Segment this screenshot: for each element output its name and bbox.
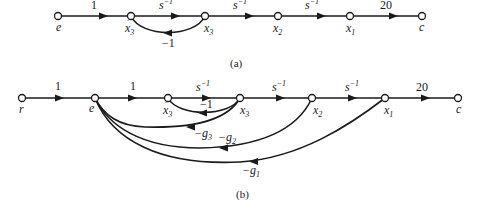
arrow-icon [128,95,137,102]
node-e [55,13,62,20]
arrow-icon [317,13,326,20]
gain-x3-x2: s−1 [233,0,247,12]
signal-flow-graphs: 1 s−1 s−1 s−1 20 −1 e x3 · x3 x2 x1 c (a… [0,0,481,207]
arrow-icon [99,13,108,20]
node-x1 [382,95,389,102]
gain-x3dot-x3: s−1 [196,79,210,94]
diagram-b: 1 1 s−1 s−1 s−1 20 −1 −g3 −g2 −g1 r e x3… [19,79,463,201]
label-e: e [56,20,62,34]
gain-g1: −g1 [242,163,260,179]
arrow-icon [421,95,430,102]
node-x1 [347,13,354,20]
gain-x1-c: 20 [416,80,428,94]
label-x1: x1 [383,103,393,119]
gain-x3-x2: s−1 [272,79,286,94]
gain-g3: −g3 [194,126,212,142]
caption-b: (b) [236,188,249,201]
label-c: c [419,20,425,34]
label-r: r [19,102,24,116]
caption-a: (a) [230,57,243,70]
dot-mark: · [127,15,130,25]
label-x2: x2 [272,21,282,37]
gain-g2: −g2 [218,130,236,146]
label-x3: x3 [203,21,213,37]
gain-x3dot-x3: s−1 [159,0,173,12]
arrow-icon [219,145,228,152]
node-r [19,95,26,102]
gain-feedback-a: −1 [162,36,175,50]
gain-e-x3dot: 1 [91,0,97,12]
dot-mark: · [165,97,168,107]
gain-x2-x1: s−1 [345,79,359,94]
label-x1: x1 [345,21,355,37]
gain-x1-c: 20 [380,0,392,12]
node-x2 [275,13,282,20]
label-c: c [456,102,462,116]
arrow-icon [55,95,64,102]
node-x2 [309,95,316,102]
feedback-branch-a [131,16,205,33]
arrow-icon [276,95,285,102]
diagram-a: 1 s−1 s−1 s−1 20 −1 e x3 · x3 x2 x1 c (a… [55,0,426,70]
label-e: e [89,101,95,115]
label-x3: x3 [239,103,249,119]
gain-feedback-minor: −1 [200,97,213,111]
gain-e-x3dot: 1 [130,79,136,93]
gain-r-e: 1 [55,79,61,93]
arrow-icon [171,13,180,20]
node-c [455,95,462,102]
node-x3 [237,95,244,102]
arrow-icon [389,13,398,20]
node-c [419,13,426,20]
arrow-icon [245,13,254,20]
label-x2: x2 [312,103,322,119]
gain-x2-x1: s−1 [305,0,319,12]
node-x3 [202,13,209,20]
arrow-icon [348,95,357,102]
